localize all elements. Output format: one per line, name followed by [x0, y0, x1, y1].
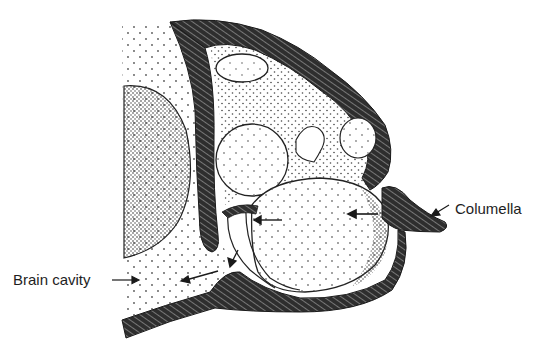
columella-bone	[382, 187, 447, 233]
columella-label: Columella	[455, 201, 522, 216]
columella-leader-arrow	[431, 205, 449, 216]
arrow-down-into-brain	[228, 250, 238, 267]
brain-cavity-label: Brain cavity	[13, 272, 91, 287]
ear-cross-section-diagram	[0, 0, 553, 352]
